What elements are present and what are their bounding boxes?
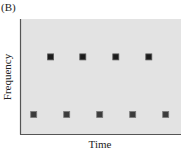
data-point-upper-4 (146, 54, 152, 60)
data-point-lower-4 (130, 112, 136, 118)
data-point-lower-5 (163, 112, 169, 118)
data-point-lower-3 (97, 112, 103, 118)
data-point-lower-1 (31, 112, 37, 118)
data-point-upper-1 (48, 54, 54, 60)
data-point-upper-3 (113, 54, 119, 60)
x-axis-label: Time (89, 138, 112, 150)
data-point-upper-2 (80, 54, 86, 60)
chart-plot (0, 0, 185, 154)
y-axis-label: Frequency (1, 54, 13, 100)
data-point-lower-2 (64, 112, 70, 118)
